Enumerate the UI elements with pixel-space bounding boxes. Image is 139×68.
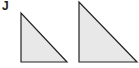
large-right-triangle xyxy=(79,2,137,62)
triangles-diagram xyxy=(0,0,139,68)
small-right-triangle xyxy=(21,13,67,62)
